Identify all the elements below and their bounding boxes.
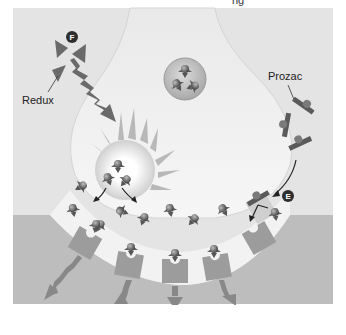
synapse-diagram: ng (0, 0, 346, 335)
partial-title-text: ng (232, 0, 244, 6)
redux-step-letter: F (70, 33, 75, 42)
prozac-step-letter: E (286, 192, 292, 201)
prozac-label: Prozac (268, 70, 303, 82)
bottom-margin (0, 305, 346, 335)
redux-label: Redux (22, 94, 54, 106)
synaptic-vesicle (164, 58, 206, 100)
